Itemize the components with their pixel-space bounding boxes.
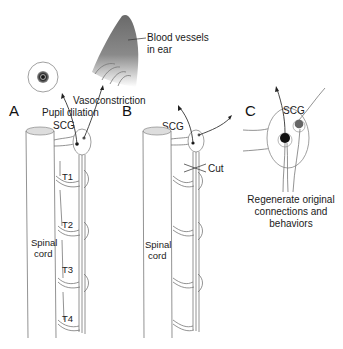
spinal-cord-a-label-line1: Spinal xyxy=(31,237,57,248)
scg-label-c: SCG xyxy=(283,105,305,116)
ear-label-line1: Blood vessels xyxy=(147,32,209,43)
scg-ganglion-a xyxy=(54,129,91,155)
c-arrowhead-1 xyxy=(275,86,279,92)
sympathetic-chain-b xyxy=(173,152,203,332)
spinal-cord-a-label-line2: cord xyxy=(34,248,52,259)
panel-c: C SCG Regenerate original connections an… xyxy=(243,86,335,229)
caption-line3: behaviors xyxy=(269,218,312,229)
b-axon-2 xyxy=(199,118,230,135)
panel-c-label: C xyxy=(245,102,256,119)
cut-label: Cut xyxy=(208,163,224,174)
panel-b-label: B xyxy=(122,102,132,119)
neuron-black xyxy=(280,133,290,143)
panel-a: A Blood vessels in ear Vasoconstriction … xyxy=(9,15,209,338)
segment-t4-label: T4 xyxy=(62,313,73,324)
spinal-cord-b xyxy=(143,127,172,338)
segment-t1-label: T1 xyxy=(62,171,73,182)
segment-t3-label: T3 xyxy=(62,264,73,275)
sympathetic-regeneration-diagram: A Blood vessels in ear Vasoconstriction … xyxy=(0,0,343,349)
cut-mark-icon xyxy=(184,164,206,172)
spinal-cord-a xyxy=(26,127,56,338)
scg-ganglion-c xyxy=(243,108,309,192)
spinal-cord-b-label-line1: Spinal xyxy=(145,239,171,250)
ear-blood-vessels-icon xyxy=(92,15,138,87)
vasoconstriction-label: Vasoconstriction xyxy=(73,95,146,106)
scg-ganglion-b xyxy=(171,130,204,152)
segment-t2-label: T2 xyxy=(62,219,73,230)
vaso-arrowhead xyxy=(100,85,104,90)
caption-line2: connections and xyxy=(255,206,328,217)
panel-b: B SCG Spinal cord xyxy=(122,102,232,338)
caption-line1: Regenerate original xyxy=(247,194,334,205)
ear-label-line2: in ear xyxy=(147,44,173,55)
eye-icon xyxy=(28,62,58,92)
scg-label-a: SCG xyxy=(53,120,75,131)
panel-a-label: A xyxy=(9,102,19,119)
neuron-gray xyxy=(295,120,304,129)
spinal-cord-b-label-line2: cord xyxy=(148,250,166,261)
